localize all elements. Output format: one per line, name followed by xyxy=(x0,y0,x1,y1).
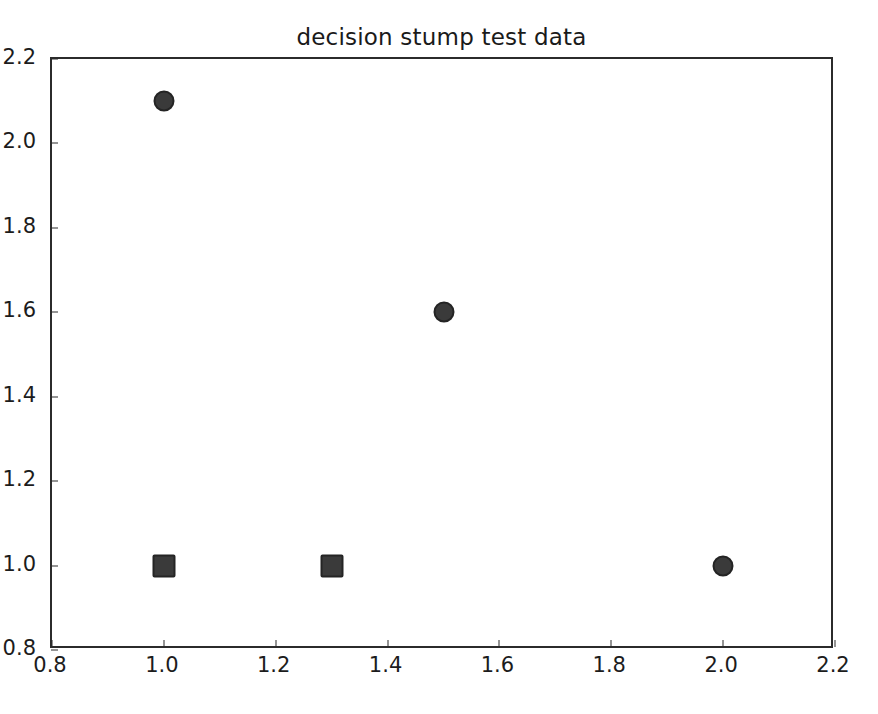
x-axis-tick xyxy=(723,640,724,647)
data-layer xyxy=(52,59,831,646)
x-axis-tick xyxy=(163,640,164,647)
plot-area xyxy=(50,57,833,648)
data-point-circle xyxy=(713,555,734,576)
y-axis-tick xyxy=(51,481,58,482)
x-axis-tick xyxy=(275,640,276,647)
y-axis-tick-label: 0.8 xyxy=(3,636,36,660)
x-axis-tick xyxy=(499,640,500,647)
y-axis-tick-label: 1.0 xyxy=(3,552,36,576)
y-axis-tick-label: 1.4 xyxy=(3,383,36,407)
y-axis-tick xyxy=(51,312,58,313)
figure-canvas: decision stump test data 0.81.01.21.41.6… xyxy=(0,0,878,714)
x-axis-tick-label: 1.2 xyxy=(257,653,290,677)
y-axis-tick xyxy=(51,565,58,566)
x-axis-tick-label: 2.0 xyxy=(704,653,737,677)
x-axis-tick xyxy=(387,640,388,647)
x-axis-tick-label: 2.2 xyxy=(816,653,849,677)
x-axis-tick-label: 1.8 xyxy=(593,653,626,677)
x-axis-tick xyxy=(52,640,53,647)
y-axis-tick-label: 2.0 xyxy=(3,129,36,153)
x-axis-tick xyxy=(611,640,612,647)
y-axis-tick xyxy=(51,396,58,397)
x-axis-tick-label: 1.4 xyxy=(369,653,402,677)
x-axis-tick-label: 0.8 xyxy=(33,653,66,677)
data-point-circle xyxy=(153,91,174,112)
data-point-square xyxy=(152,554,175,577)
page-title: decision stump test data xyxy=(50,24,833,50)
y-axis-tick-label: 2.2 xyxy=(3,45,36,69)
data-point-square xyxy=(320,554,343,577)
y-axis-tick xyxy=(51,143,58,144)
y-axis-tick-label: 1.6 xyxy=(3,298,36,322)
data-point-circle xyxy=(433,302,454,323)
x-axis-tick-label: 1.0 xyxy=(145,653,178,677)
x-axis-tick-label: 1.6 xyxy=(481,653,514,677)
y-axis-tick-label: 1.8 xyxy=(3,214,36,238)
y-axis-tick xyxy=(51,650,58,651)
x-axis-tick xyxy=(835,640,836,647)
y-axis-tick-label: 1.2 xyxy=(3,467,36,491)
y-axis-tick xyxy=(51,227,58,228)
y-axis-tick xyxy=(51,59,58,60)
